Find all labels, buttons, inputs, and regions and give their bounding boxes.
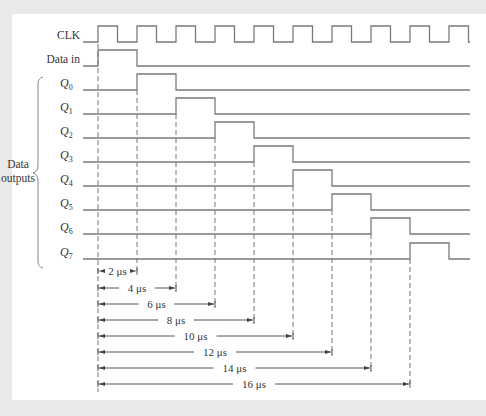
- label-q1: Q1: [60, 100, 73, 116]
- dimension-label: 4 μs: [128, 282, 146, 294]
- waveform-q6: [83, 218, 470, 234]
- arrowhead-left-icon: [99, 366, 105, 370]
- data-outputs-brace: Data outputs: [1, 77, 43, 268]
- dimension-label: 8 μs: [167, 314, 185, 326]
- waveform-q1: [83, 98, 470, 114]
- waveform-q5: [83, 194, 470, 210]
- arrowhead-left-icon: [99, 269, 105, 273]
- arrowhead-left-icon: [99, 334, 105, 338]
- signal-waveforms: [83, 26, 470, 259]
- arrowhead-right-icon: [208, 302, 214, 306]
- waveform-q2: [83, 122, 470, 138]
- signal-labels: CLKData inQ0Q1Q2Q3Q4Q5Q6Q7: [46, 29, 80, 261]
- label-q0: Q0: [60, 76, 73, 92]
- dimension-label: 12 μs: [203, 346, 227, 358]
- arrowhead-right-icon: [325, 350, 331, 354]
- waveform-q0: [83, 74, 470, 90]
- arrowhead-right-icon: [403, 382, 409, 386]
- dimension-10us: 10 μs: [98, 330, 293, 342]
- dimension-label: 10 μs: [184, 330, 208, 342]
- dimension-4us: 4 μs: [98, 282, 176, 294]
- arrowhead-left-icon: [99, 286, 105, 290]
- dimension-6us: 6 μs: [98, 298, 215, 310]
- timing-diagram: CLKData inQ0Q1Q2Q3Q4Q5Q6Q7 Data outputs …: [0, 0, 486, 416]
- waveform-data-in: [83, 50, 470, 66]
- group-label-line2: outputs: [1, 172, 35, 185]
- label-q6: Q6: [60, 220, 73, 236]
- dimension-label: 6 μs: [147, 298, 165, 310]
- label-q7: Q7: [60, 245, 73, 261]
- dimension-label: 16 μs: [242, 378, 266, 390]
- arrowhead-right-icon: [286, 334, 292, 338]
- arrowhead-left-icon: [99, 318, 105, 322]
- label-q4: Q4: [60, 172, 73, 188]
- arrowhead-right-icon: [364, 366, 370, 370]
- arrowhead-right-icon: [130, 269, 136, 273]
- label-q5: Q5: [60, 196, 73, 212]
- group-label-line1: Data: [7, 158, 29, 170]
- arrowhead-left-icon: [99, 382, 105, 386]
- label-data-in: Data in: [46, 53, 80, 65]
- waveform-q4: [83, 170, 470, 186]
- dimension-14us: 14 μs: [98, 362, 371, 374]
- dimension-label: 2 μs: [108, 265, 126, 277]
- arrowhead-right-icon: [247, 318, 253, 322]
- arrowhead-right-icon: [169, 286, 175, 290]
- waveform-q7: [83, 243, 470, 259]
- dimension-2us: 2 μs: [98, 265, 137, 277]
- dimension-label: 14 μs: [223, 362, 247, 374]
- dimension-16us: 16 μs: [98, 378, 410, 390]
- dimension-8us: 8 μs: [98, 314, 254, 326]
- dimension-12us: 12 μs: [98, 346, 332, 358]
- waveform-CLK: [83, 26, 470, 42]
- waveform-q3: [83, 146, 470, 162]
- label-q3: Q3: [60, 148, 73, 164]
- arrowhead-left-icon: [99, 302, 105, 306]
- label-CLK: CLK: [57, 29, 81, 41]
- label-q2: Q2: [60, 124, 73, 140]
- timing-guides: [98, 44, 410, 392]
- arrowhead-left-icon: [99, 350, 105, 354]
